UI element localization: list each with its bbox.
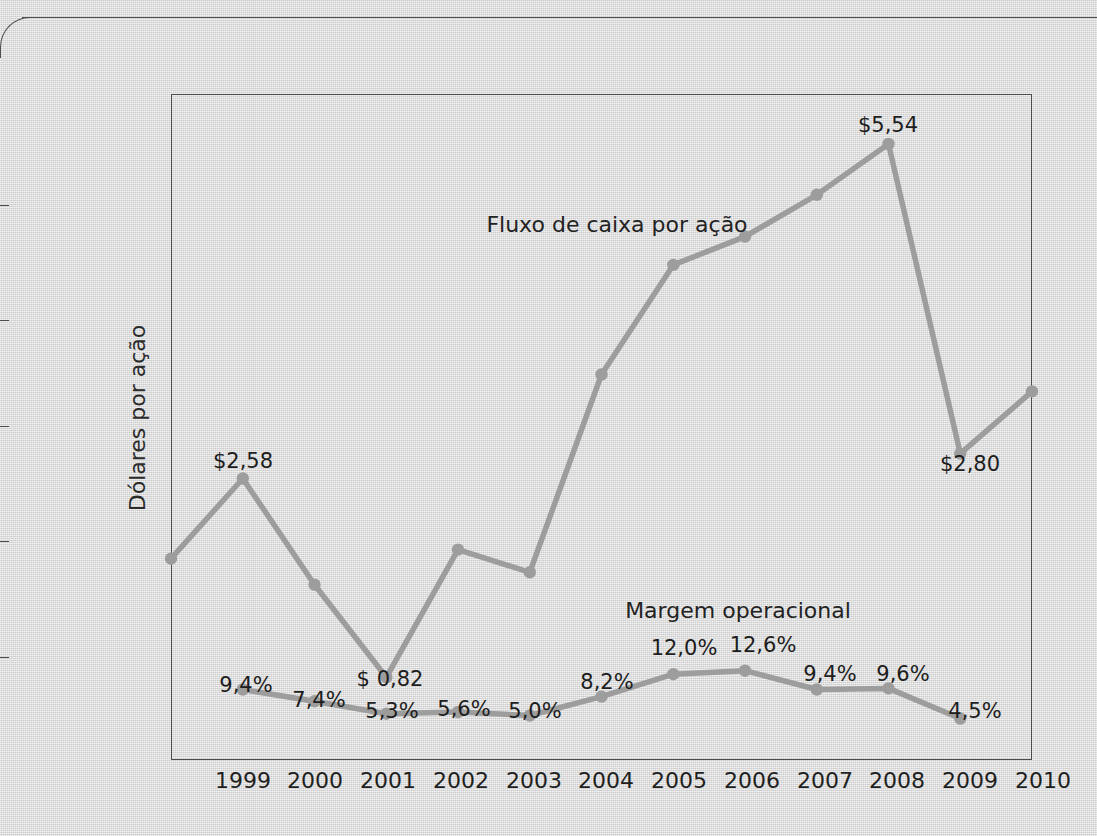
margin-value-label-2005: 12,0%: [651, 636, 718, 660]
margin-value-label-2001: 5,3%: [365, 699, 418, 723]
margin-value-label-2003: 5,0%: [508, 699, 561, 723]
cashflow-point-2007: [811, 189, 823, 201]
cashflow-point-2000: [308, 579, 320, 591]
margin-value-label-1999: 9,4%: [219, 673, 272, 697]
margin-value-label-2007: 9,4%: [803, 662, 856, 686]
cashflow-point-2002: [452, 543, 464, 555]
cashflow-point-1998: [165, 553, 177, 565]
cashflow-point-2005: [667, 259, 679, 271]
margin-value-label-2000: 7,4%: [292, 688, 345, 712]
cashflow-point-1999: [237, 472, 249, 484]
cashflow-value-label-2009: $2,80: [940, 452, 1000, 476]
margin-value-label-2002: 5,6%: [437, 697, 490, 721]
margin-value-label-2004: 8,2%: [580, 670, 633, 694]
series-label-margin: Margem operacional: [625, 598, 851, 623]
margin-point-2005: [667, 668, 679, 680]
margin-value-label-2008: 9,6%: [876, 662, 929, 686]
cashflow-point-2003: [524, 566, 536, 578]
figure: Dólares por ação US$5 US$4 US$3 US$2 US$…: [0, 0, 1097, 836]
cashflow-value-label-1999: $2,58: [213, 449, 273, 473]
margin-value-label-2009: 4,5%: [948, 699, 1001, 723]
cashflow-point-2004: [595, 368, 607, 380]
margin-point-2006: [739, 665, 751, 677]
margin-value-label-2006: 12,6%: [730, 633, 797, 657]
series-label-cashflow: Fluxo de caixa por ação: [486, 212, 747, 237]
cashflow-point-2010: [1026, 385, 1038, 397]
cashflow-point-2008: [882, 138, 894, 150]
cashflow-value-label-2001: $ 0,82: [357, 667, 424, 691]
cashflow-value-label-2008: $5,54: [858, 113, 918, 137]
